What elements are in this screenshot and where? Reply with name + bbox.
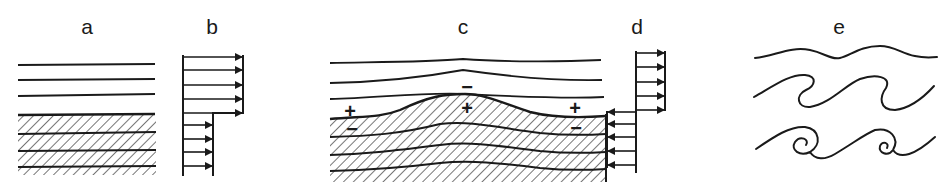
sign-minus-right-below: − [570, 117, 582, 139]
sign-minus-left-below: − [346, 118, 358, 140]
panel-a-layers [18, 64, 156, 175]
sign-minus-crest-above: − [461, 76, 473, 98]
panel-e-billows [754, 46, 937, 158]
panel-d-velocity-profile [607, 51, 665, 173]
panel-b-velocity-profile [183, 55, 243, 176]
sign-plus-crest-below: + [461, 97, 473, 119]
kelvin-helmholtz-diagram: a b c d e [0, 0, 947, 194]
sign-plus-right-above: + [569, 97, 581, 119]
